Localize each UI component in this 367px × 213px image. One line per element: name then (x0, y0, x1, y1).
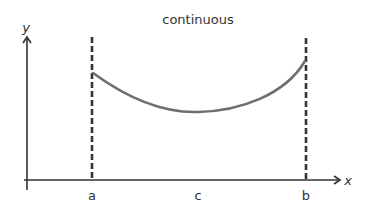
function-curve (93, 61, 305, 112)
point-label-c: c (194, 188, 201, 203)
diagram-canvas: continuous y x a c b (0, 0, 367, 213)
point-label-b: b (302, 188, 310, 203)
y-axis-label: y (21, 20, 30, 35)
point-label-a: a (88, 188, 96, 203)
diagram-title: continuous (162, 12, 234, 27)
x-axis-label: x (343, 173, 352, 188)
